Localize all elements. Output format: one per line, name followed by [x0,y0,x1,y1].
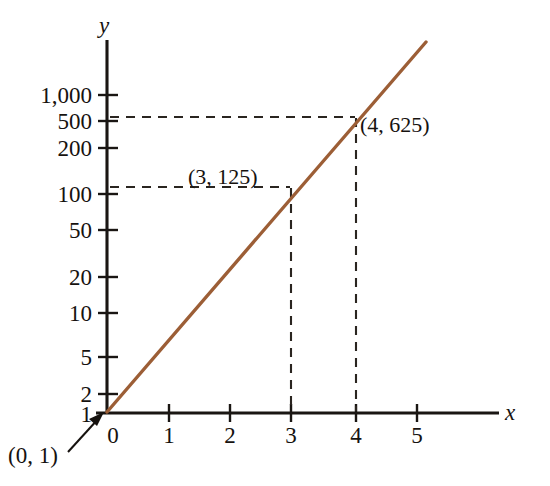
x-tick-label-3: 3 [285,424,297,447]
exponential-curve [107,42,426,412]
x-axis-label: x [505,401,515,424]
y-tick-label-50: 50 [10,219,92,242]
x-tick-label-4: 4 [350,424,362,447]
semilog-plot-figure: 1,000 500 200 100 50 20 10 5 2 1 0 1 2 3… [0,0,550,486]
x-tick-label-5: 5 [411,424,423,447]
annotation-point-0-1: (0, 1) [8,444,58,467]
annotation-point-3-125: (3, 125) [188,166,258,188]
y-tick-label-5: 5 [10,346,92,369]
annotation-point-4-625: (4, 625) [360,114,430,136]
x-tick-label-0: 0 [107,424,119,447]
y-tick-label-200: 200 [10,137,92,160]
y-tick-label-1: 1 [10,403,92,426]
x-tick-label-2: 2 [224,424,236,447]
y-tick-label-10: 10 [10,302,92,325]
y-tick-label-20: 20 [10,266,92,289]
y-tick-label-100: 100 [10,183,92,206]
x-tick-label-1: 1 [163,424,175,447]
y-axis-label: y [99,14,109,37]
y-tick-label-500: 500 [10,110,92,133]
y-tick-label-1000: 1,000 [10,84,92,107]
